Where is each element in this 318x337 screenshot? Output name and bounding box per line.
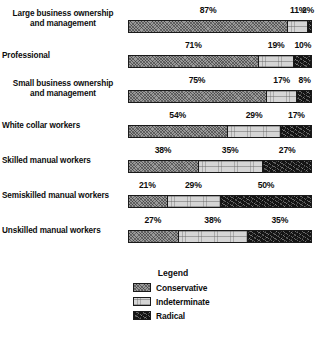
bar-track <box>128 20 312 33</box>
bar-segment-conservative <box>129 56 258 67</box>
bar-segment-indeterminate <box>227 126 280 137</box>
chart-row: White collar workers54%29%17% <box>0 105 318 140</box>
segment-value-label: 38% <box>155 145 172 155</box>
legend-item[interactable]: Radical <box>133 310 185 321</box>
category-label-line2: and management <box>2 89 124 99</box>
bar-track <box>128 90 312 103</box>
segment-value-label: 2% <box>302 5 314 15</box>
legend-item[interactable]: Conservative <box>133 282 207 293</box>
segment-value-label: 19% <box>268 40 285 50</box>
legend-swatch-conservative <box>133 283 151 292</box>
chart-row: Semiskilled manual workers21%29%50% <box>0 175 318 210</box>
chart-row: Professional71%19%10% <box>0 35 318 70</box>
bar-segment-conservative <box>129 91 266 102</box>
category-label-line1: Large business ownership <box>2 9 124 19</box>
segment-value-label: 27% <box>279 145 296 155</box>
bar-segment-radical <box>296 91 311 102</box>
segment-value-label: 17% <box>273 75 290 85</box>
bar-track <box>128 195 312 208</box>
segment-value-label: 35% <box>222 145 239 155</box>
category-label: Unskilled manual workers <box>2 226 124 236</box>
legend-title: Legend <box>133 268 213 278</box>
legend-label: Indeterminate <box>156 297 210 307</box>
chart-row: Large business ownershipand management87… <box>0 0 318 35</box>
bar-track <box>128 160 312 173</box>
category-label-line2: and management <box>2 19 124 29</box>
segment-value-label: 38% <box>204 215 221 225</box>
segment-value-label: 10% <box>294 40 311 50</box>
segment-value-label: 35% <box>271 215 288 225</box>
category-label-line1: Semiskilled manual workers <box>2 191 124 201</box>
bar-segment-conservative <box>129 21 287 32</box>
bar-track <box>128 230 312 243</box>
segment-value-label: 29% <box>185 180 202 190</box>
bar-segment-indeterminate <box>198 161 262 172</box>
bar-segment-conservative <box>129 161 198 172</box>
legend-swatch-radical <box>133 311 151 320</box>
bar-segment-indeterminate <box>266 91 297 102</box>
category-label: Small business ownershipand management <box>2 79 124 99</box>
segment-value-label: 50% <box>258 180 275 190</box>
segment-value-label: 29% <box>246 110 263 120</box>
category-label-line1: White collar workers <box>2 121 124 131</box>
chart-row: Unskilled manual workers27%38%35% <box>0 210 318 245</box>
bar-segment-conservative <box>129 126 227 137</box>
segment-value-label: 27% <box>145 215 162 225</box>
legend-swatch-indeterminate <box>133 297 151 306</box>
bar-segment-radical <box>293 56 311 67</box>
bar-segment-conservative <box>129 231 178 242</box>
bar-track <box>128 55 312 68</box>
bar-segment-indeterminate <box>178 231 247 242</box>
bar-segment-indeterminate <box>258 56 293 67</box>
category-label-line1: Small business ownership <box>2 79 124 89</box>
bar-segment-conservative <box>129 196 167 207</box>
bar-segment-indeterminate <box>167 196 220 207</box>
segment-value-label: 87% <box>200 5 217 15</box>
category-label: Professional <box>2 51 124 61</box>
category-label: Skilled manual workers <box>2 156 124 166</box>
legend-label: Conservative <box>156 283 207 293</box>
segment-value-label: 21% <box>139 180 156 190</box>
bar-track <box>128 125 312 138</box>
category-label-line1: Unskilled manual workers <box>2 226 124 236</box>
segment-value-label: 54% <box>169 110 186 120</box>
bar-segment-radical <box>280 126 311 137</box>
segment-value-label: 8% <box>299 75 311 85</box>
category-label: Semiskilled manual workers <box>2 191 124 201</box>
category-label-line1: Professional <box>2 51 124 61</box>
bar-segment-indeterminate <box>287 21 307 32</box>
segment-value-label: 75% <box>189 75 206 85</box>
category-label-line1: Skilled manual workers <box>2 156 124 166</box>
chart-row: Small business ownershipand management75… <box>0 70 318 105</box>
category-label: Large business ownershipand management <box>2 9 124 29</box>
bar-segment-radical <box>262 161 311 172</box>
bar-segment-radical <box>247 231 311 242</box>
chart-row: Skilled manual workers38%35%27% <box>0 140 318 175</box>
segment-value-label: 17% <box>288 110 305 120</box>
bar-segment-radical <box>307 21 311 32</box>
category-label: White collar workers <box>2 121 124 131</box>
legend-label: Radical <box>156 311 185 321</box>
legend-item[interactable]: Indeterminate <box>133 296 210 307</box>
segment-value-label: 71% <box>185 40 202 50</box>
bar-segment-radical <box>220 196 311 207</box>
